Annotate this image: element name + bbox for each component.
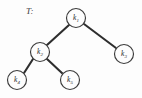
edge-k1-k3 (84, 24, 116, 48)
node-k5[interactable]: k5 (61, 71, 80, 90)
node-k2[interactable]: k2 (31, 43, 50, 62)
node-k3[interactable]: k3 (115, 45, 134, 64)
node-k1[interactable]: k1 (67, 9, 86, 28)
figure-caption-label: T: (26, 6, 34, 16)
node-subscript-k1: 1 (77, 18, 80, 23)
tree-nodes: k1 k2 k3 k4 k5 (8, 9, 134, 90)
node-k4[interactable]: k4 (8, 71, 27, 90)
tree-diagram: T: k1 k2 k3 k4 (0, 0, 142, 98)
tree-figure: T: k1 k2 k3 k4 (0, 0, 142, 98)
edge-k2-k4 (24, 59, 33, 73)
edge-k1-k2 (47, 25, 69, 45)
edge-k2-k5 (47, 59, 63, 74)
